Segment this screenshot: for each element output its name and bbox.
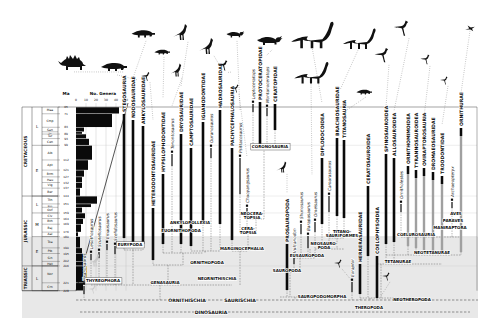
taxon-ghost-bar [441,176,443,254]
silhouette-connector [344,97,366,112]
taxon-label: Scelidosaurus [113,211,118,241]
taxon-label: HADROSAURIDAE [218,63,223,108]
taxon-label: Archaeopteryx [450,166,455,198]
taxon-label: Ouranosaurus [209,113,214,143]
ma-tick: 195 [63,252,69,256]
silhouette-ankylosaur [356,90,372,95]
histogram-bar [76,204,91,207]
silhouette-bird [465,26,475,32]
taxon-range-bar [90,254,91,260]
silhouette-ankylosaur [154,50,170,55]
taxon-range-bar [307,236,308,248]
histogram-bar [76,134,86,138]
taxon-range-bar [106,244,107,250]
clade-label: EURYPODA [118,242,143,247]
stage-label: Het [47,262,53,266]
taxon-range-bar [441,176,443,184]
taxon-label: STEGOSAURIA [122,75,127,112]
stage-label: Cen [47,140,53,144]
stage-label: Crn [47,285,52,289]
ma-tick: 159 [63,211,69,215]
taxon-label: Montanoceratops [265,66,270,103]
stage-label: Hau [47,178,53,182]
root-clade-label: SAURISCHIA [224,298,256,303]
taxon-range-bar [367,186,370,256]
taxon-range-bar [451,202,452,208]
taxon-range-bar [343,140,346,218]
histogram-bar [76,196,97,203]
taxon-label: Camarasaurus [327,160,332,191]
histogram-bar [76,114,112,127]
silhouette-sauropod [291,22,333,49]
silhouette-connector [311,82,312,175]
taxon-label: Barapasaurus [306,201,311,231]
taxon-label: Psittacosaurus [238,122,243,153]
taxon-range-bar [274,104,277,130]
stage-label: Baj [48,226,53,230]
silhouette-connector [461,31,470,93]
silhouette-connector [386,65,389,107]
histogram-bar [76,188,80,195]
taxon-range-bar [210,148,211,158]
genus-marker [90,251,92,253]
stage-label: Oxf [47,208,53,212]
taxon-label: IGUANODONTIDAE [201,73,206,120]
epoch-label: L [36,202,39,207]
taxon-label: ORNITHOMIMOIDEA [406,113,411,164]
taxon-range-bar [123,114,126,238]
ma-tick: 112 [63,158,69,162]
clade-label: MANIRAPTORA [433,225,467,230]
clade-label: PARAVES [443,218,463,223]
genus-marker [300,221,302,223]
histogram-axis-tick: 40 [114,98,118,102]
genera-axis-header: No. Genera [90,91,117,96]
histogram-bar [76,219,83,224]
taxon-range-bar [376,256,379,298]
taxon-label: Scutellosaurus [97,216,102,247]
ma-tick: 137 [63,186,69,190]
ma-tick: 89 [64,132,68,136]
taxon-label: HERRERASAURIDAE [358,212,363,263]
ma-tick: 127 [63,175,69,179]
silhouette-connector [266,50,272,56]
taxon-range-bar [415,170,417,178]
ma-tick: 221 [63,281,69,285]
taxon-label: HETERODONTOSAURIDAE [151,140,156,206]
taxon-range-bar [393,158,396,242]
taxon-label: Ornitholestes [399,170,404,199]
taxon-label: DRYOSAURIDAE [179,92,184,132]
taxon-range-bar [336,138,339,216]
clade-label: CERA-TOPSIA [240,226,257,235]
silhouette-ornithopod [170,64,181,77]
taxon-range-bar [266,108,267,116]
stage-label: Cmp [46,119,53,123]
epoch-label: E [36,168,39,173]
silhouette-sauropod [343,29,376,49]
taxon-range-bar [460,128,462,136]
taxon-range-bar [423,168,425,176]
taxon-range-bar [171,154,172,166]
stage-label: Ber [47,190,53,194]
genus-marker [246,205,248,207]
taxon-label: PROTOCERATOPIDAE [258,46,263,100]
clade-label: NEOTETANURAE [414,250,450,255]
dinosaur-phylogeny-figure: Ma No. Genera 01020304050CRETACEOUSLEJUR… [0,0,493,328]
histogram-bar [76,248,82,253]
period-label: JURASSIC [23,220,28,243]
silhouette-theropod [375,48,389,62]
silhouette-connector [237,41,240,110]
clade-label: AVES [450,211,462,216]
silhouette-connector [340,48,359,90]
silhouette-connector [442,86,448,125]
stage-label: Tth [46,198,52,202]
taxon-ghost-bar [432,172,434,252]
histogram-bar [76,224,81,231]
histogram-bar [76,132,82,134]
genus-marker [98,249,100,251]
taxon-label: ANKYLOSAURIDAE [141,77,146,124]
histogram-bar [76,237,80,248]
ma-tick: 121 [63,168,69,172]
taxon-label: Emausaurus [105,212,110,239]
stage-label: Tur [47,134,53,138]
taxon-range-bar [132,120,135,242]
